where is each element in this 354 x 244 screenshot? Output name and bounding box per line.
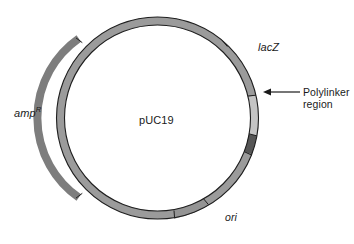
plasmid-map-figure: ampR lacZ ori pUC19 Polylinkerregion <box>0 0 354 244</box>
segment-lacZ <box>252 96 254 135</box>
callout-arrowhead-icon <box>263 88 271 95</box>
label-ori: ori <box>225 211 237 223</box>
label-amp-superscript: R <box>36 105 41 114</box>
plasmid-circle-diagram <box>0 0 354 244</box>
segment-dividers <box>76 38 257 219</box>
polylinker-callout-arrow <box>263 88 300 95</box>
label-amp-text: amp <box>14 107 36 119</box>
label-lacz: lacZ <box>258 41 279 54</box>
label-amp-resistance: ampR <box>14 106 41 120</box>
label-polylinker-line2: region <box>303 98 350 110</box>
label-polylinker-region: Polylinkerregion <box>303 86 350 111</box>
plasmid-name-label: pUC19 <box>139 114 174 127</box>
label-polylinker-line1: Polylinker <box>303 86 350 98</box>
